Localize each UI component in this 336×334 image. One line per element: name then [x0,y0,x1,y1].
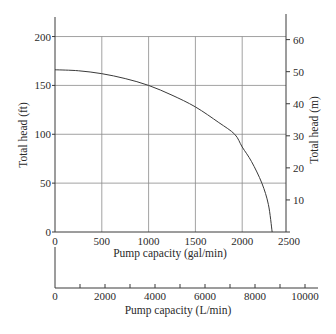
x2-tick-label-10000: 10000 [291,290,319,302]
x-tick-label-0: 0 [52,235,58,247]
tick-labels: 0501001502000500100015002000250010203040… [35,31,320,302]
y2-tick-label-30: 30 [293,130,305,142]
y-tick-label-50: 50 [40,177,52,189]
x-tick-label-1000: 1000 [138,235,161,247]
x2-tick-label-8000: 8000 [244,290,267,302]
x-axis-title: Pump capacity (gal/min) [113,247,227,260]
y2-tick-label-40: 40 [293,98,305,110]
x2-axis-title: Pump capacity (L/min) [125,304,232,317]
y2-tick-label-60: 60 [293,34,305,46]
x-tick-label-2000: 2000 [231,235,254,247]
y2-tick-label-20: 20 [293,162,305,174]
x-tick-label-1500: 1500 [184,235,207,247]
y2-tick-label-50: 50 [293,66,305,78]
y2-tick-label-10: 10 [293,194,305,206]
y-axis-title: Total head (ft) [17,102,30,168]
y-tick-label-200: 200 [35,31,52,43]
y-tick-label-100: 100 [35,128,52,140]
x2-tick-label-4000: 4000 [144,290,167,302]
pump-curve-line [55,70,272,232]
x-tick-label-500: 500 [94,235,111,247]
x-tick-label-2500: 2500 [278,235,301,247]
x2-tick-label-6000: 6000 [194,290,217,302]
x2-tick-label-2000: 2000 [94,290,117,302]
y2-axis-title: Total head (m) [308,96,321,164]
y-tick-label-0: 0 [46,226,52,238]
pump-curve-chart: 0501001502000500100015002000250010203040… [0,0,336,334]
grid-lines [55,37,286,232]
y-tick-label-150: 150 [35,79,52,91]
x2-tick-label-0: 0 [52,290,58,302]
